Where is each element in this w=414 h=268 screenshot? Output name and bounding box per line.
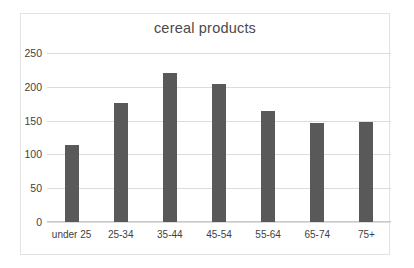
chart-container: cereal products 0 50 100 150 200 250 und… xyxy=(20,13,390,255)
xtick-label: 55-64 xyxy=(255,229,281,240)
xtick-label: 25-34 xyxy=(108,229,134,240)
ytick-label-200: 200 xyxy=(24,81,42,93)
bar xyxy=(359,122,373,222)
bar xyxy=(163,73,177,222)
xtick-label: 65-74 xyxy=(304,229,330,240)
xtick-label: 45-54 xyxy=(206,229,232,240)
bar xyxy=(261,111,275,222)
bar xyxy=(65,145,79,222)
chart-title: cereal products xyxy=(21,20,389,36)
ytick-label-100: 100 xyxy=(24,148,42,160)
ytick-label-50: 50 xyxy=(30,182,42,194)
xtick-label: 35-44 xyxy=(157,229,183,240)
ytick-label-250: 250 xyxy=(24,47,42,59)
xtick-label: under 25 xyxy=(52,229,91,240)
xtick-label: 75+ xyxy=(358,229,375,240)
ytick-label-150: 150 xyxy=(24,115,42,127)
bar xyxy=(212,84,226,222)
plot-area: 0 50 100 150 200 250 under 2525-3435-444… xyxy=(47,53,391,222)
gridline-250: 250 xyxy=(47,53,391,54)
bar xyxy=(114,103,128,222)
ytick-label-0: 0 xyxy=(36,216,42,228)
bar xyxy=(310,123,324,222)
gridline-0: 0 xyxy=(47,222,391,223)
